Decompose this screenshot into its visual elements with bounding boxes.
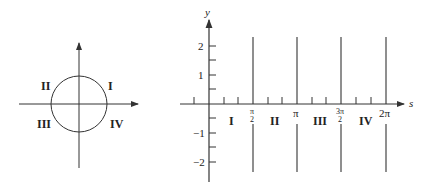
quadrant-label-i: I (108, 79, 113, 93)
interval-label-ii: II (270, 114, 280, 128)
quadrant-label-ii: II (41, 79, 51, 93)
y-tick-neg2: −2 (193, 156, 205, 168)
s-minor-ticks (194, 97, 371, 104)
s-axis-label: s (409, 97, 413, 109)
tangent-asymptote-diagram: y s 2 1 −1 −2 (180, 6, 413, 182)
tick-pi: π (293, 107, 299, 119)
y-tick-2: 2 (198, 40, 204, 52)
quadrant-label-iii: III (37, 117, 51, 131)
interval-label-iv: IV (359, 114, 373, 128)
figure: I II III IV y s 2 1 −1 −2 (0, 0, 432, 191)
y-tick-neg1: −1 (193, 127, 205, 139)
tick-2pi: 2π (379, 107, 391, 119)
unit-circle-diagram: I II III IV (19, 43, 138, 168)
y-tick-1: 1 (198, 69, 204, 81)
tick-3pi-over-2-den: 2 (338, 115, 342, 124)
tick-pi-over-2-den: 2 (250, 115, 254, 124)
interval-label-i: I (229, 114, 234, 128)
y-axis-label: y (204, 6, 210, 18)
interval-label-iii: III (313, 114, 327, 128)
quadrant-label-iv: IV (110, 117, 124, 131)
